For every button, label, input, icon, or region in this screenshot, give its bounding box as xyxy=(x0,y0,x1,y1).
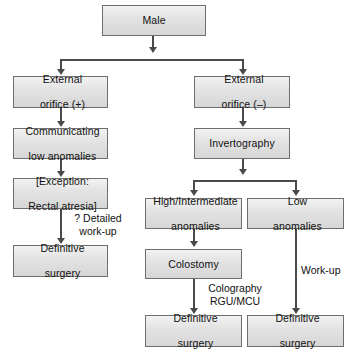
node-invertography: Invertography xyxy=(194,128,290,159)
node-external-orifice-negative-line2: orifice (–) xyxy=(197,98,291,111)
edge-label-detailed-work-up: ? Detailed work-up xyxy=(65,212,131,237)
edge-label-work-up: Work-up xyxy=(301,264,340,277)
node-external-orifice-positive-line2: orifice (+) xyxy=(16,98,109,111)
node-male: Male xyxy=(102,5,206,36)
edge-label-detailed-work-up-line1: ? Detailed xyxy=(74,212,121,224)
node-definitive-surgery-left-line1: Definitive xyxy=(16,242,109,255)
edge-top-split-horizontal xyxy=(60,59,244,61)
node-low-anomalies-line1: Low xyxy=(250,195,345,208)
node-external-orifice-positive: External orifice (+) xyxy=(13,76,108,108)
arrowhead-colostomy xyxy=(190,241,198,247)
node-invertography-label: Invertography xyxy=(195,137,289,150)
node-external-orifice-negative-line1: External xyxy=(197,73,291,86)
node-high-intermediate-anomalies: High/Intermediate anomalies xyxy=(145,198,242,229)
node-high-intermediate-anomalies-line2: anomalies xyxy=(148,220,243,233)
node-communicating-low-anomalies: Communicating low anomalies xyxy=(13,128,108,159)
edge-label-detailed-work-up-line2: work-up xyxy=(79,225,116,237)
node-exception-rectal-atresia-line2: Rectal atresia] xyxy=(16,200,109,213)
edge-label-work-up-line1: Work-up xyxy=(301,264,340,276)
edge-lower-split-horizontal xyxy=(193,180,297,182)
node-low-anomalies: Low anomalies xyxy=(247,198,344,229)
node-colostomy-label: Colostomy xyxy=(146,258,241,271)
node-definitive-surgery-middle: Definitive surgery xyxy=(145,315,242,347)
node-definitive-surgery-left: Definitive surgery xyxy=(13,245,108,277)
node-high-intermediate-anomalies-line1: High/Intermediate xyxy=(148,195,243,208)
arrowhead-invertography-down xyxy=(239,169,247,175)
node-external-orifice-positive-line1: External xyxy=(16,73,109,86)
node-definitive-surgery-right-line1: Definitive xyxy=(250,312,345,325)
node-definitive-surgery-right: Definitive surgery xyxy=(247,315,344,347)
node-communicating-low-anomalies-line2: low anomalies xyxy=(16,150,109,163)
node-definitive-surgery-left-line2: surgery xyxy=(16,267,109,280)
node-definitive-surgery-right-line2: surgery xyxy=(250,337,345,350)
node-exception-rectal-atresia: [Exception: Rectal atresia] xyxy=(13,178,108,209)
arrowhead-male-down xyxy=(149,47,157,53)
edge-low-anomalies-to-definitive-right xyxy=(295,228,297,309)
node-colostomy: Colostomy xyxy=(145,249,242,279)
node-definitive-surgery-middle-line1: Definitive xyxy=(148,312,243,325)
edge-label-colography-rgu-mcu-line2: RGU/MCU xyxy=(210,295,260,307)
edge-label-colography-rgu-mcu: Colography RGU/MCU xyxy=(199,282,271,307)
node-communicating-low-anomalies-line1: Communicating xyxy=(16,125,109,138)
node-low-anomalies-line2: anomalies xyxy=(250,220,345,233)
edge-colostomy-to-definitive-middle xyxy=(193,278,195,309)
node-male-label: Male xyxy=(103,14,205,27)
edge-exception-to-definitive-left xyxy=(60,208,62,239)
node-definitive-surgery-middle-line2: surgery xyxy=(148,337,243,350)
edge-label-colography-rgu-mcu-line1: Colography xyxy=(208,282,262,294)
arrowhead-invertography xyxy=(239,121,247,127)
node-exception-rectal-atresia-line1: [Exception: xyxy=(16,175,109,188)
flowchart-male-anorectal-malformation: Male External orifice (+) External orifi… xyxy=(0,0,351,352)
node-external-orifice-negative: External orifice (–) xyxy=(194,76,290,108)
